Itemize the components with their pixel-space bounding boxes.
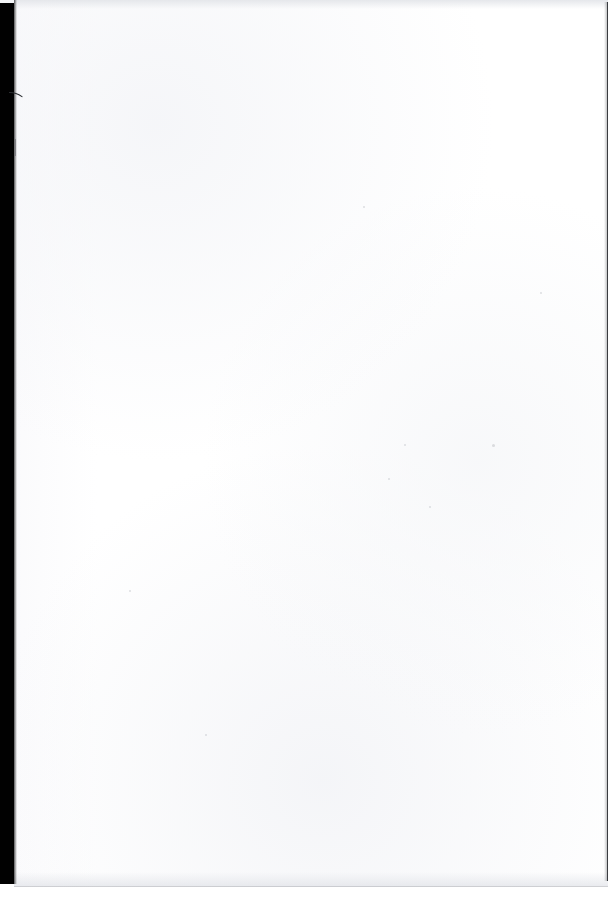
scanner-gutter-feather [13, 0, 17, 884]
scanner-gutter-top-notch [0, 0, 14, 3]
dust-speck [429, 506, 431, 508]
page-bottom-shade [14, 872, 608, 886]
dust-speck [404, 444, 406, 446]
curve-artifact-icon [9, 88, 25, 102]
scanner-gutter-shadow [0, 0, 14, 884]
hairline-curve-artifact [9, 88, 23, 100]
paper-surface [14, 0, 609, 887]
dust-speck [540, 292, 542, 294]
dust-speck [492, 444, 495, 447]
gutter-edge-tick [15, 139, 16, 156]
page-top-scan-band [14, 0, 608, 9]
dust-speck [363, 206, 365, 208]
page-right-edge [607, 2, 608, 881]
dust-speck [129, 590, 131, 592]
dust-speck [388, 478, 390, 480]
page-bottom-edge [14, 886, 608, 887]
dust-speck [205, 734, 207, 736]
scanned-page [0, 0, 614, 901]
